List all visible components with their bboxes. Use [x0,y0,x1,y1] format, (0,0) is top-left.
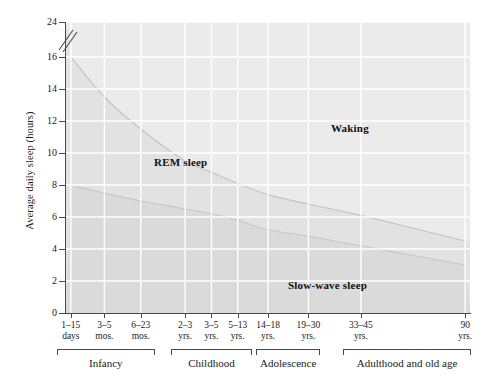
bracket-label-childhood: Childhood [188,357,234,369]
bracket-label-adolescence: Adolescence [260,357,316,369]
x-tick-label-6: 14–18yrs. [256,320,280,342]
y-tick-label-0: 0 [0,308,57,318]
area-label-waking: Waking [331,122,369,134]
bracket-childhood-tipL [171,349,172,355]
axis-break-icon [56,26,78,56]
x-tick-label-3: 2–3yrs. [178,320,192,342]
x-tick-1 [104,313,105,318]
x-tick-label-8: 33–45yrs. [349,320,373,342]
y-tick-label-14: 14 [0,84,57,94]
y-tick-label-6: 6 [0,212,57,222]
bracket-childhood-bar [171,349,252,350]
y-axis-line [65,22,66,314]
x-tick-2 [141,313,142,318]
bracket-label-adulthood: Adulthood and old age [357,357,458,369]
sleep-lifespan-chart: Average daily sleep (hours) [0,0,500,384]
x-tick-label-line2: yrs. [458,331,472,342]
bracket-childhood [171,349,252,355]
y-axis-title: Average daily sleep (hours) [24,71,35,271]
x-tick-label-line2: days [61,331,80,342]
area-label-slow-wave-sleep: Slow-wave sleep [288,279,367,291]
y-tick-label-16: 16 [0,52,57,62]
bracket-adulthood-tipL [343,349,344,355]
bracket-adulthood-bar [343,349,471,350]
x-tick-9 [465,313,466,318]
bracket-infancy-tipL [57,349,58,355]
x-tick-label-4: 3–5yrs. [204,320,218,342]
y-tick-label-2: 2 [0,276,57,286]
y-tick-12 [59,121,65,122]
x-tick-0 [71,313,72,318]
x-tick-6 [268,313,269,318]
bracket-adulthood-tipR [470,349,471,355]
y-tick-16 [59,57,65,58]
x-tick-label-line2: yrs. [297,331,321,342]
x-tick-label-9: 90yrs. [458,320,472,342]
y-tick-4 [59,249,65,250]
bracket-adolescence-tipR [319,349,320,355]
bracket-infancy-tipR [154,349,155,355]
x-tick-label-line1: 3–5 [97,320,111,330]
y-tick-0 [59,313,65,314]
y-tick-label-12: 12 [0,116,57,126]
y-tick-label-10: 10 [0,148,57,158]
x-tick-label-2: 6–23mos. [131,320,150,342]
bracket-label-infancy: Infancy [89,357,123,369]
y-tick-label-8: 8 [0,180,57,190]
y-tick-label-24: 24 [0,17,57,27]
x-tick-label-line1: 3–5 [204,320,218,330]
x-tick-label-5: 5–13yrs. [228,320,247,342]
area-label-rem-sleep: REM sleep [154,156,207,168]
y-tick-6 [59,217,65,218]
x-tick-label-line1: 5–13 [228,320,247,330]
x-tick-label-line1: 33–45 [349,320,373,330]
x-tick-label-line2: yrs. [204,331,218,342]
x-tick-label-line2: mos. [131,331,150,342]
y-tick-label-4: 4 [0,244,57,254]
x-tick-label-line1: 19–30 [297,320,321,330]
x-tick-5 [238,313,239,318]
x-tick-7 [308,313,309,318]
plot-area: REM sleep Waking Slow-wave sleep [66,22,470,313]
bracket-adolescence [256,349,320,355]
x-tick-label-7: 19–30yrs. [297,320,321,342]
x-tick-label-line1: 1–15 [61,320,80,330]
bracket-infancy-bar [57,349,155,350]
y-tick-24 [59,22,65,23]
x-tick-label-line1: 14–18 [256,320,280,330]
y-tick-8 [59,185,65,186]
x-tick-label-line2: mos. [95,331,113,342]
x-tick-label-1: 3–5mos. [95,320,113,342]
plot-svg [66,22,470,313]
x-tick-label-line2: yrs. [178,331,192,342]
y-tick-14 [59,89,65,90]
x-tick-label-line2: yrs. [256,331,280,342]
x-tick-label-line1: 6–23 [131,320,150,330]
bracket-infancy [57,349,155,355]
x-tick-8 [361,313,362,318]
y-tick-10 [59,153,65,154]
x-tick-label-line2: yrs. [228,331,247,342]
x-tick-4 [211,313,212,318]
bracket-childhood-tipR [251,349,252,355]
x-tick-label-0: 1–15days [61,320,80,342]
bracket-adolescence-tipL [256,349,257,355]
bracket-adolescence-bar [256,349,320,350]
x-tick-label-line1: 90 [460,320,470,330]
x-tick-label-line1: 2–3 [178,320,192,330]
x-tick-label-line2: yrs. [349,331,373,342]
y-tick-2 [59,281,65,282]
bracket-adulthood [343,349,471,355]
x-tick-3 [185,313,186,318]
